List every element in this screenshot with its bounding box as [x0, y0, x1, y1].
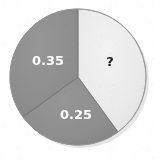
pie-chart-svg: ? 0.25 0.35 [0, 0, 155, 160]
pie-slice-025-label: 0.25 [60, 107, 92, 122]
pie-chart-figure: ? 0.25 0.35 [0, 0, 155, 160]
pie-slice-unknown-label: ? [106, 54, 114, 69]
pie-slice-035-label: 0.35 [32, 53, 64, 68]
